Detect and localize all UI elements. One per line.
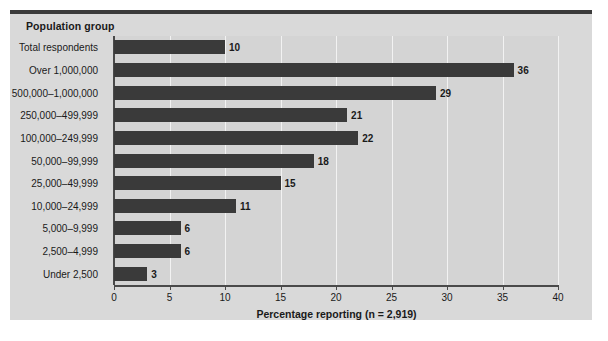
- bar-value-label: 6: [181, 223, 191, 234]
- bar: [114, 176, 281, 190]
- category-label: 500,000–1,000,000: [0, 87, 104, 98]
- x-tick-mark: [114, 285, 115, 290]
- x-tick-mark: [281, 285, 282, 290]
- bar: [114, 244, 181, 258]
- bar-value-label: 11: [236, 200, 251, 211]
- x-tick-mark: [336, 285, 337, 290]
- bar: [114, 86, 436, 100]
- x-tick-mark: [170, 285, 171, 290]
- category-label: 250,000–499,999: [0, 110, 104, 121]
- bar-value-label: 6: [181, 246, 191, 257]
- x-tick-mark: [225, 285, 226, 290]
- category-label: Total respondents: [0, 42, 104, 53]
- category-label: 2,500–4,999: [0, 246, 104, 257]
- gridline: [558, 36, 559, 285]
- bar: [114, 108, 347, 122]
- bar-value-label: 22: [358, 132, 373, 143]
- category-label: 25,000–49,999: [0, 178, 104, 189]
- bar-value-label: 18: [314, 155, 329, 166]
- bar: [114, 221, 181, 235]
- x-tick-label: 30: [441, 292, 452, 303]
- category-label: Over 1,000,000: [0, 64, 104, 75]
- category-label: Under 2,500: [0, 268, 104, 279]
- x-tick-label: 0: [111, 292, 117, 303]
- bar-value-label: 36: [514, 64, 529, 75]
- bar: [114, 267, 147, 281]
- x-axis-title: Percentage reporting (n = 2,919): [114, 308, 559, 320]
- top-rule-divider: [10, 10, 592, 14]
- bar-value-label: 10: [225, 42, 240, 53]
- bar: [114, 154, 314, 168]
- bar-value-label: 29: [436, 87, 451, 98]
- bar: [114, 131, 358, 145]
- category-label: 100,000–249,999: [0, 132, 104, 143]
- x-tick-label: 40: [552, 292, 563, 303]
- category-label: 10,000–24,999: [0, 200, 104, 211]
- category-label: 5,000–9,999: [0, 223, 104, 234]
- x-tick-label: 20: [330, 292, 341, 303]
- bar: [114, 63, 514, 77]
- bar: [114, 40, 225, 54]
- bar-value-label: 3: [147, 268, 157, 279]
- chart-figure: Population group 0510152025303540 Total …: [0, 0, 608, 341]
- x-tick-label: 5: [167, 292, 173, 303]
- bar-value-label: 21: [347, 110, 362, 121]
- x-tick-mark: [558, 285, 559, 290]
- x-tick-label: 35: [497, 292, 508, 303]
- category-label: 50,000–99,999: [0, 155, 104, 166]
- x-tick-mark: [503, 285, 504, 290]
- x-tick-label: 10: [219, 292, 230, 303]
- bar: [114, 199, 236, 213]
- x-tick-mark: [447, 285, 448, 290]
- x-tick-mark: [392, 285, 393, 290]
- x-tick-label: 25: [386, 292, 397, 303]
- x-tick-label: 15: [275, 292, 286, 303]
- population-group-header: Population group: [26, 20, 115, 32]
- bar-value-label: 15: [281, 178, 296, 189]
